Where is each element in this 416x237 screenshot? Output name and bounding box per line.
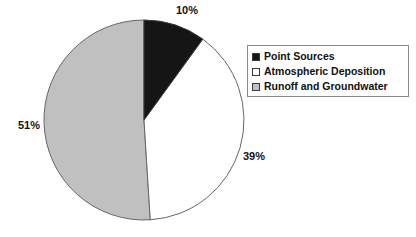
chart-legend: Point Sources Atmospheric Deposition Run… xyxy=(247,45,409,97)
legend-item-point-sources[interactable]: Point Sources xyxy=(252,49,404,64)
legend-item-atmospheric-deposition[interactable]: Atmospheric Deposition xyxy=(252,64,404,79)
legend-item-runoff-and-groundwater[interactable]: Runoff and Groundwater xyxy=(252,79,404,94)
legend-label-point-sources: Point Sources xyxy=(264,51,335,62)
legend-swatch-runoff-and-groundwater-icon xyxy=(252,83,260,91)
pie-chart-graphic xyxy=(0,0,416,237)
legend-label-runoff-and-groundwater: Runoff and Groundwater xyxy=(264,81,388,92)
pie-chart-figure: 10% 39% 51% Point Sources Atmospheric De… xyxy=(0,0,416,237)
legend-swatch-atmospheric-deposition-icon xyxy=(252,68,260,76)
pie-value-label-atmospheric-deposition: 39% xyxy=(243,150,265,162)
legend-swatch-point-sources-icon xyxy=(252,53,260,61)
pie-slice-runoff-and-groundwater[interactable] xyxy=(44,20,150,220)
pie-value-label-point-sources: 10% xyxy=(176,4,198,16)
legend-label-atmospheric-deposition: Atmospheric Deposition xyxy=(264,66,385,77)
pie-value-label-runoff-and-groundwater: 51% xyxy=(18,119,40,131)
